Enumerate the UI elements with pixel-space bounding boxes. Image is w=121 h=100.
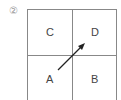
arrow-icon xyxy=(0,0,121,100)
